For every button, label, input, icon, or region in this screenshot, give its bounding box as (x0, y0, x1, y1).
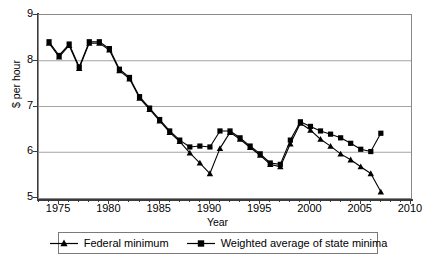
x-major-tick-mark (259, 199, 260, 204)
x-major-tick-mark (360, 199, 361, 204)
x-minor-tick-mark (139, 199, 140, 202)
legend-label-federal-minimum: Federal minimum (84, 238, 169, 249)
x-minor-tick-mark (169, 199, 170, 202)
chart-container: $ per hour 56789 19751980198519901995200… (0, 0, 435, 261)
x-tick-label: 1990 (189, 203, 229, 214)
x-minor-tick-mark (48, 199, 49, 202)
x-minor-tick-mark (370, 199, 371, 202)
x-major-tick-mark (410, 199, 411, 204)
x-minor-tick-mark (239, 199, 240, 202)
x-minor-tick-mark (219, 199, 220, 202)
x-major-tick-mark (108, 199, 109, 204)
chart-legend: Federal minimum Weighted average of stat… (58, 232, 378, 254)
x-minor-tick-mark (189, 199, 190, 202)
x-minor-tick-mark (149, 199, 150, 202)
x-tick-label: 2000 (289, 203, 329, 214)
x-minor-tick-mark (340, 199, 341, 202)
x-axis-tick-labels: 19751980198519901995200020052010 (0, 203, 435, 217)
x-minor-tick-mark (179, 199, 180, 202)
legend-item-federal-minimum: Federal minimum (49, 238, 169, 249)
y-tick-label: 6 (3, 145, 33, 156)
x-minor-tick-mark (98, 199, 99, 202)
x-minor-tick-mark (320, 199, 321, 202)
x-minor-tick-mark (249, 199, 250, 202)
x-major-tick-mark (309, 199, 310, 204)
x-minor-tick-mark (350, 199, 351, 202)
x-minor-tick-mark (400, 199, 401, 202)
x-major-tick-mark (159, 199, 160, 204)
x-minor-tick-mark (88, 199, 89, 202)
x-minor-tick-mark (78, 199, 79, 202)
y-tick-label: 9 (3, 8, 33, 19)
x-minor-tick-mark (289, 199, 290, 202)
x-minor-tick-mark (269, 199, 270, 202)
square-marker-icon (186, 238, 216, 249)
x-tick-label: 2005 (340, 203, 380, 214)
x-minor-tick-mark (118, 199, 119, 202)
x-minor-tick-mark (128, 199, 129, 202)
x-minor-tick-mark (390, 199, 391, 202)
triangle-marker-icon (49, 238, 79, 249)
x-major-tick-mark (209, 199, 210, 204)
chart-svg (39, 15, 411, 198)
y-tick-label: 7 (3, 100, 33, 111)
x-minor-tick-mark (38, 199, 39, 202)
x-minor-tick-mark (68, 199, 69, 202)
x-minor-tick-mark (299, 199, 300, 202)
y-tick-label: 8 (3, 54, 33, 65)
x-axis-title: Year (0, 216, 435, 228)
plot-area (38, 14, 412, 199)
x-tick-label: 2010 (390, 203, 430, 214)
x-minor-tick-mark (330, 199, 331, 202)
legend-item-state-minima: Weighted average of state minima (186, 238, 388, 249)
x-minor-tick-mark (229, 199, 230, 202)
x-tick-label: 1995 (239, 203, 279, 214)
x-minor-tick-mark (380, 199, 381, 202)
x-tick-label: 1980 (88, 203, 128, 214)
legend-label-state-minima: Weighted average of state minima (221, 238, 388, 249)
x-major-tick-mark (58, 199, 59, 204)
x-minor-tick-mark (279, 199, 280, 202)
x-axis-line (37, 199, 413, 201)
x-tick-label: 1985 (139, 203, 179, 214)
x-tick-label: 1975 (38, 203, 78, 214)
x-minor-tick-mark (199, 199, 200, 202)
y-tick-label: 5 (3, 191, 33, 202)
